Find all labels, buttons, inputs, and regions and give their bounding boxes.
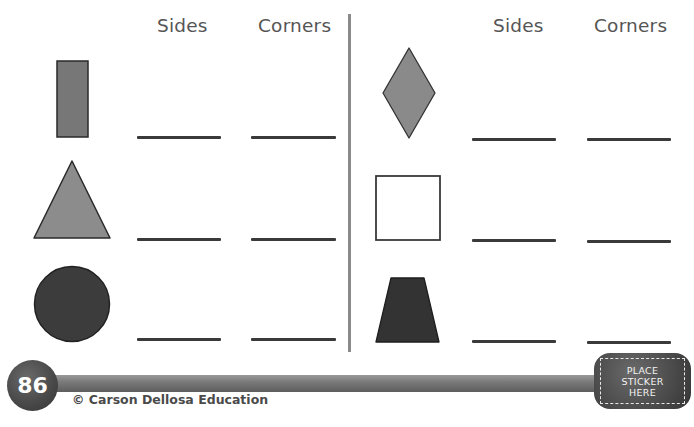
right-header-sides: Sides (493, 15, 544, 36)
page-number-badge: 86 (7, 360, 58, 411)
sticker-line-1: PLACE (627, 365, 659, 376)
sticker-placeholder: PLACE STICKER HERE (594, 353, 691, 409)
sticker-line-2: STICKER (621, 376, 663, 387)
answer-line-rectangle-corners[interactable] (251, 136, 336, 139)
copyright-text: © Carson Dellosa Education (72, 392, 268, 407)
page-number: 86 (17, 373, 48, 398)
square-shape (375, 175, 441, 241)
trapezoid-shape (375, 277, 441, 343)
answer-line-triangle-corners[interactable] (251, 238, 336, 241)
answer-line-trapezoid-sides[interactable] (472, 340, 556, 343)
answer-line-square-sides[interactable] (472, 239, 556, 242)
sticker-line-3: HERE (629, 387, 656, 398)
answer-line-rhombus-corners[interactable] (587, 138, 671, 141)
sticker-dashed-box: PLACE STICKER HERE (600, 358, 685, 404)
left-header-corners: Corners (258, 15, 331, 36)
answer-line-trapezoid-corners[interactable] (587, 341, 671, 344)
right-header-corners: Corners (594, 15, 667, 36)
answer-line-triangle-sides[interactable] (137, 238, 221, 241)
answer-line-circle-sides[interactable] (137, 338, 221, 341)
answer-line-circle-corners[interactable] (251, 338, 336, 341)
left-header-sides: Sides (157, 15, 208, 36)
answer-line-square-corners[interactable] (587, 240, 671, 243)
center-divider (348, 14, 351, 352)
rectangle-shape (56, 60, 90, 138)
circle-shape (33, 265, 111, 343)
rhombus-shape (382, 47, 436, 139)
answer-line-rhombus-sides[interactable] (472, 138, 556, 141)
triangle-shape (33, 160, 113, 240)
footer-bar (40, 375, 620, 392)
answer-line-rectangle-sides[interactable] (137, 136, 221, 139)
